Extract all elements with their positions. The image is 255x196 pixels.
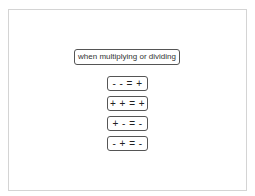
title-label: when multiplying or dividing: [74, 49, 180, 65]
sign-rule-box: - - = +: [107, 76, 148, 91]
sign-rule-box: - + = -: [107, 136, 148, 151]
sign-rule-box: + + = +: [107, 96, 148, 111]
sign-rule-box: + - = -: [107, 116, 148, 131]
